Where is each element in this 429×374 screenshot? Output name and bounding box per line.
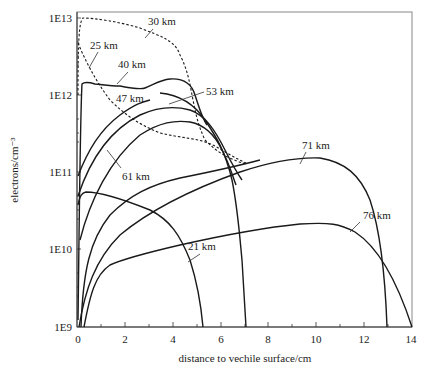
- x-tick-label: 6: [218, 333, 224, 345]
- label-53km: 53 km: [206, 85, 234, 97]
- label-30km: 30 km: [148, 15, 176, 27]
- series-61km: [80, 121, 236, 240]
- y-tick-label: 1E10: [49, 243, 73, 255]
- label-76km: 76 km: [363, 209, 391, 221]
- x-tick-label: 8: [265, 333, 271, 345]
- series-labels: 30 km 25 km 40 km 47 km 53 km 61 km 71 k…: [89, 15, 391, 262]
- y-axis-label: electrons/cm⁻³: [8, 137, 20, 203]
- label-71km: 71 km: [302, 139, 330, 151]
- chart: 1E13 1E12 1E11 1E10 1E9 0 2 4 6 8 10 12 …: [0, 0, 429, 374]
- x-tick-label: 10: [311, 333, 323, 345]
- series-76km: [84, 223, 412, 327]
- x-tick-label: 2: [122, 333, 128, 345]
- x-tick-label: 0: [75, 333, 81, 345]
- y-tick-label: 1E9: [54, 321, 72, 333]
- y-tick-label: 1E13: [49, 12, 73, 24]
- x-tick-label: 4: [170, 333, 176, 345]
- label-25km: 25 km: [90, 39, 118, 51]
- label-21km: 21 km: [188, 240, 216, 252]
- x-ticks: [101, 322, 388, 327]
- y-tick-label: 1E11: [49, 166, 72, 178]
- label-40km: 40 km: [118, 58, 146, 70]
- label-61km: 61 km: [122, 170, 150, 182]
- label-47km: 47 km: [116, 92, 144, 104]
- x-axis-label: distance to vechile surface/cm: [179, 352, 312, 364]
- x-tick-label: 12: [359, 333, 370, 345]
- series-40km: [78, 79, 207, 320]
- series-21km: [78, 192, 203, 327]
- x-tick-label: 14: [406, 333, 418, 345]
- series-53km: [160, 93, 246, 327]
- y-tick-label: 1E12: [49, 89, 72, 101]
